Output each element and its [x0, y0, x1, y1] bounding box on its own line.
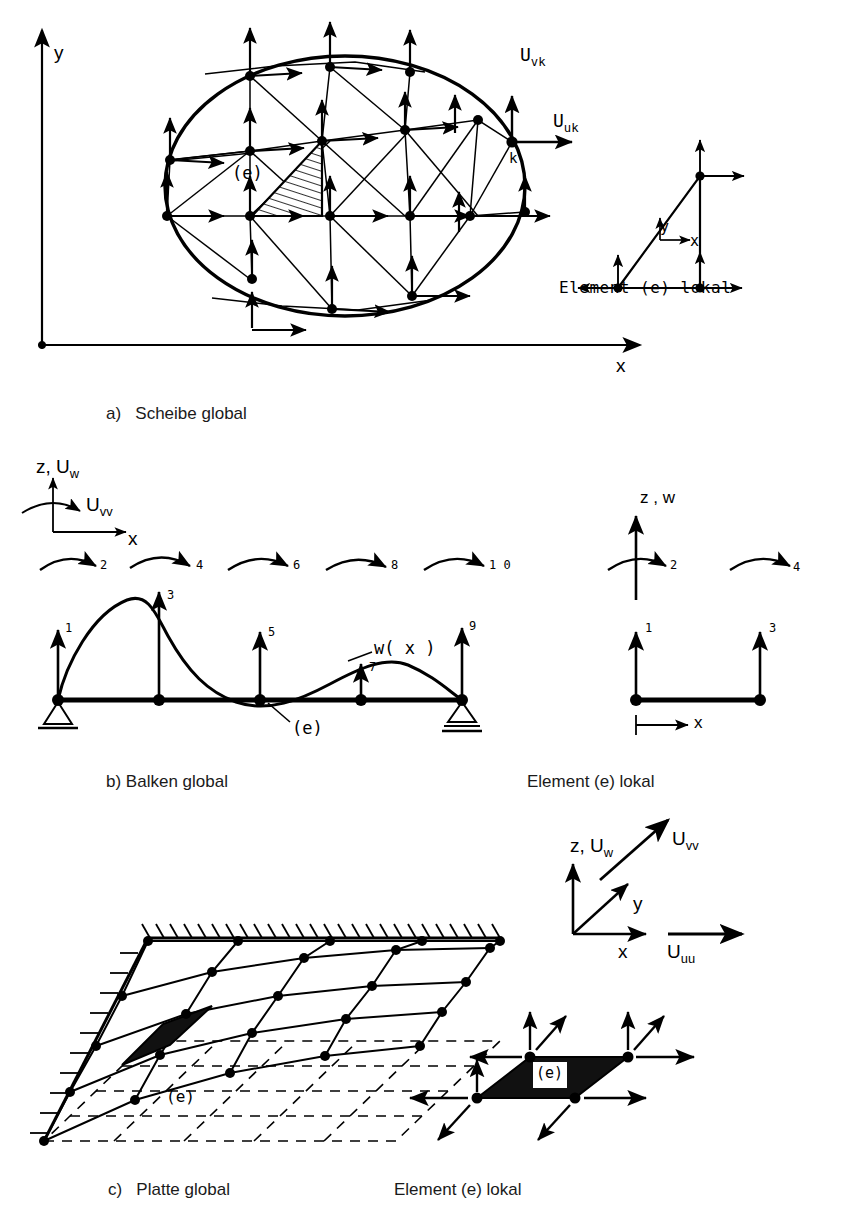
panel-b-dof-8: 8 [391, 558, 398, 572]
scheibe-boundary [165, 56, 525, 316]
panel-a-axis-y-label: y [54, 42, 64, 64]
panel-a-axis-x-label: x [616, 355, 626, 377]
panel-b-dof-10: 1 0 [489, 558, 511, 572]
beam-element-leader [268, 703, 290, 722]
panel-b-dof-4: 4 [196, 558, 203, 572]
panel-c-dof-uvv-label: Uvv [672, 828, 699, 853]
panel-b-local-dof-2: 2 [670, 558, 677, 572]
panel-c-platte [30, 820, 742, 1146]
panel-b-dof-9: 9 [469, 619, 476, 633]
panel-b-axis-x-label: x [128, 528, 138, 550]
panel-a-scheibe [38, 22, 744, 349]
platte-undeformed-grid [44, 1041, 500, 1141]
panel-b-dof-2: 2 [100, 558, 107, 572]
panel-c-dof-uuu-label: Uuu [667, 941, 695, 966]
panel-a-dof-uuk-label: Uuk [553, 110, 579, 135]
figure-root: y x Uvk Uuk k (e) y x Element (e) lokal … [0, 0, 856, 1223]
panel-b-local-axis-x-label: x [694, 713, 703, 733]
panel-a-local-axis-x-label: x [690, 232, 699, 250]
panel-c-local-caption: Element (e) lokal [394, 1180, 522, 1200]
panel-b-dof-6: 6 [293, 558, 300, 572]
panel-a-local-element [578, 140, 744, 293]
panel-c-local-element-label: (e) [536, 1064, 563, 1082]
panel-b-local-axis-z-label: z , w [640, 488, 675, 508]
panel-c-axis-x-label: x [618, 941, 628, 963]
panel-a-caption: a) Scheibe global [106, 404, 247, 424]
panel-b-local-caption: Element (e) lokal [527, 772, 655, 792]
panel-a-local-axis-y-label: y [660, 218, 669, 236]
panel-b-dof-1: 1 [65, 621, 72, 635]
fem-diagram-svg [0, 0, 856, 1223]
panel-a-dof-uvk-label: Uvk [520, 44, 546, 69]
panel-c-axis-y-label: y [633, 893, 643, 915]
panel-b-local-dof-3: 3 [769, 621, 776, 635]
panel-b-rotation-dof-label: Uvv [86, 494, 113, 519]
panel-c-element-label: (e) [166, 1087, 195, 1106]
panel-a-element-label: (e) [232, 163, 263, 183]
panel-b-local-dof-4: 4 [793, 560, 800, 574]
panel-b-dof-5: 5 [268, 625, 275, 639]
panel-a-global-axes [38, 30, 640, 349]
panel-b-dof-7: 7 [369, 660, 376, 674]
panel-b-caption: b) Balken global [106, 772, 228, 792]
panel-b-axis-z-label: z, Uw [36, 456, 79, 481]
scheibe-mesh [167, 62, 525, 310]
panel-b-dof-3: 3 [167, 588, 174, 602]
platte-element-e [122, 1006, 212, 1065]
panel-b-element-label: (e) [292, 718, 323, 738]
panel-b-balken [22, 478, 790, 735]
panel-b-local-dof-1: 1 [645, 621, 652, 635]
panel-a-node-k-label: k [509, 150, 517, 166]
panel-b-deflection-label: w( x ) [374, 638, 435, 658]
panel-b-local-element [608, 516, 790, 735]
panel-c-axis-z-label: z, Uw [570, 835, 613, 860]
panel-c-caption: c) Platte global [108, 1180, 230, 1200]
beam-support-roller [442, 702, 482, 731]
panel-a-local-caption: Element (e) lokal [559, 278, 731, 297]
